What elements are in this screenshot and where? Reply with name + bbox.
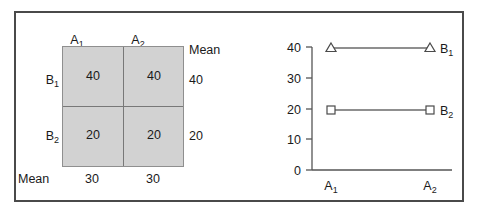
figure-frame: A1 A2 B1 B2 40 40 20 20 Mean 40 20 Mean … xyxy=(14,11,464,202)
marker-b2-a1-square-icon xyxy=(327,106,335,114)
table-row-mean-b2: 20 xyxy=(189,129,203,143)
y-tick-label-40: 40 xyxy=(287,41,301,55)
table-column-header-a2: A2 xyxy=(108,33,168,47)
table-column-mean-a2: 30 xyxy=(123,172,183,186)
table-column-header-a1: A1 xyxy=(47,33,107,47)
y-tick-label-20: 20 xyxy=(287,103,301,117)
table-cell-b1-a2: 40 xyxy=(124,69,184,83)
marker-b1-a1-triangle-icon xyxy=(326,43,336,52)
x-tick-label-a2: A2 xyxy=(423,179,436,195)
grid-horizontal-divider xyxy=(63,106,183,107)
table-mean-column-label: Mean xyxy=(189,43,220,57)
table-mean-row-label: Mean xyxy=(18,172,49,186)
marker-b2-a2-square-icon xyxy=(426,106,434,114)
y-tick-label-30: 30 xyxy=(287,72,301,86)
table-row-header-b1: B1 xyxy=(19,73,59,87)
table-cell-b2-a1: 20 xyxy=(63,128,123,142)
table-row-mean-b1: 40 xyxy=(189,73,203,87)
series-label-b1: B1 xyxy=(440,42,453,58)
interaction-line-plot: 40 30 20 10 0 A1 A2 B1 B2 xyxy=(246,13,466,204)
marker-b1-a2-triangle-icon xyxy=(425,43,435,52)
y-tick-label-10: 10 xyxy=(287,133,301,147)
y-tick-label-0: 0 xyxy=(294,164,301,178)
table-column-mean-a1: 30 xyxy=(62,172,122,186)
x-tick-label-a1: A1 xyxy=(324,179,337,195)
plot-svg: 40 30 20 10 0 A1 A2 B1 B2 xyxy=(246,13,466,204)
series-label-b2: B2 xyxy=(440,104,453,120)
table-cell-grid: 40 40 20 20 xyxy=(62,46,184,167)
table-cell-b1-a1: 40 xyxy=(63,69,123,83)
table-cell-b2-a2: 20 xyxy=(124,128,184,142)
table-row-header-b2: B2 xyxy=(19,129,59,143)
cell-means-table: A1 A2 B1 B2 40 40 20 20 Mean 40 20 Mean … xyxy=(16,13,246,204)
